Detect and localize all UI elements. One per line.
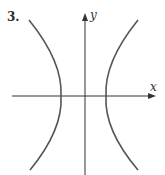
y-axis-arrow-icon	[82, 13, 88, 21]
y-axis-label: y	[89, 8, 97, 22]
problem-number: 3.	[7, 10, 20, 24]
hyperbola-diagram: 3. x y	[0, 0, 165, 175]
right-branch-curve	[106, 20, 138, 170]
x-axis-label: x	[150, 80, 157, 94]
left-branch-curve	[29, 20, 61, 170]
